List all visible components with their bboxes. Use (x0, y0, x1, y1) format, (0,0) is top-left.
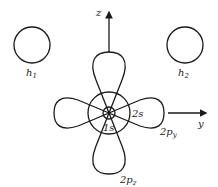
pz-label: 2pz (119, 174, 137, 187)
pz-lobe-top (93, 52, 125, 113)
h2-orbital (167, 27, 203, 63)
h1-label: h1 (26, 67, 37, 80)
z-axis-label: z (95, 7, 102, 18)
h2-label: h2 (178, 67, 189, 80)
s2-label: 2s (131, 108, 144, 119)
py-label: 2py (159, 126, 178, 139)
s1-label: 1s (103, 122, 115, 133)
h1-orbital (14, 27, 50, 63)
y-axis-label: y (197, 118, 204, 129)
orbital-diagram: z y h1 h2 2s 1s 2py 2pz (0, 0, 218, 187)
py-lobe-left (54, 98, 109, 128)
